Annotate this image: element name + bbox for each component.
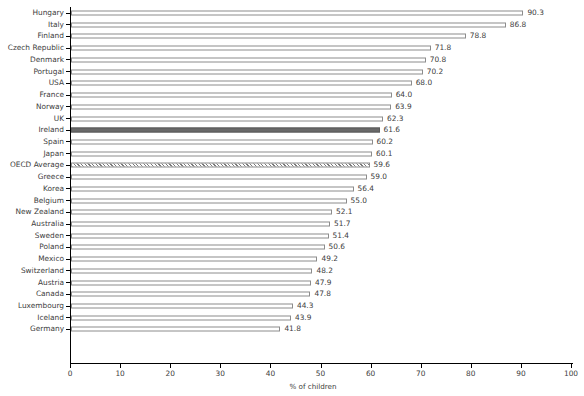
bar — [71, 22, 506, 27]
bar-value-label: 63.9 — [395, 103, 411, 110]
bar — [71, 104, 391, 109]
bar-row: Sweden51.4 — [0, 230, 584, 242]
category-label: Australia — [31, 220, 64, 227]
horizontal-bar-chart: Hungary90.3Italy86.8Finland78.8Czech Rep… — [0, 0, 584, 396]
bar-value-label: 86.8 — [510, 21, 526, 28]
x-axis-tick — [471, 364, 472, 368]
x-axis-title-label: % of children — [247, 382, 336, 391]
bar — [71, 198, 347, 203]
bar-row: OECD Average59.6 — [0, 160, 584, 172]
bar-value-label: 44.3 — [297, 302, 313, 309]
x-axis-tick-label: 10 — [115, 370, 124, 377]
category-label: OECD Average — [10, 162, 64, 169]
category-label: Greece — [38, 173, 64, 180]
bar — [71, 222, 330, 227]
x-axis-title: % of children — [0, 383, 584, 390]
bar — [71, 93, 392, 98]
x-axis-tick-label: 20 — [165, 370, 174, 377]
category-label: Belgium — [34, 197, 64, 204]
category-label: Canada — [36, 291, 64, 298]
bar-row: Luxembourg44.3 — [0, 300, 584, 312]
bar — [71, 139, 373, 144]
bar — [71, 186, 354, 191]
bar — [71, 315, 291, 320]
bar-row: Hungary90.3 — [0, 7, 584, 19]
bar-value-label: 48.2 — [316, 267, 332, 274]
x-axis-tick-label: 90 — [516, 370, 525, 377]
x-axis-tick — [120, 364, 121, 368]
bar-row: Czech Republic71.8 — [0, 42, 584, 54]
x-axis-tick-label: 0 — [68, 370, 73, 377]
category-label: Finland — [38, 33, 64, 40]
x-axis-tick-label: 70 — [416, 370, 425, 377]
bar — [71, 116, 383, 121]
bar — [71, 81, 412, 86]
category-label: Japan — [43, 150, 64, 157]
x-axis-tick — [321, 364, 322, 368]
x-axis-tick — [421, 364, 422, 368]
bar-value-label: 49.2 — [321, 255, 337, 262]
bar-row: Spain60.2 — [0, 136, 584, 148]
bar-value-label: 78.8 — [470, 33, 486, 40]
bar-row: Japan60.1 — [0, 148, 584, 160]
category-label: Hungary — [32, 9, 64, 16]
bar-row: Norway63.9 — [0, 101, 584, 113]
x-axis-tick — [270, 364, 271, 368]
category-label: Poland — [39, 244, 64, 251]
bar-row: New Zealand52.1 — [0, 206, 584, 218]
bar-value-label: 61.6 — [384, 127, 400, 134]
x-axis-tick-label: 40 — [266, 370, 275, 377]
x-axis-tick — [220, 364, 221, 368]
bar-value-label: 68.0 — [416, 80, 432, 87]
bar-row: Belgium55.0 — [0, 195, 584, 207]
bar-value-label: 70.8 — [430, 56, 446, 63]
bar — [71, 245, 325, 250]
bar-row: Canada47.8 — [0, 288, 584, 300]
bar-row: Mexico49.2 — [0, 253, 584, 265]
category-label: Sweden — [35, 232, 64, 239]
bar-value-label: 47.9 — [315, 279, 331, 286]
category-label: Norway — [36, 103, 64, 110]
bar-value-label: 56.4 — [358, 185, 374, 192]
clipped-title-strip — [0, 0, 584, 2]
bar-row: Iceland43.9 — [0, 312, 584, 324]
x-axis-tick-label: 50 — [316, 370, 325, 377]
category-label: Mexico — [38, 255, 64, 262]
bar — [71, 210, 332, 215]
category-label: Korea — [43, 185, 64, 192]
bar-value-label: 51.7 — [334, 220, 350, 227]
category-label: UK — [54, 115, 64, 122]
category-label: Italy — [48, 21, 64, 28]
bar — [71, 57, 426, 62]
bar — [71, 304, 293, 309]
bar-row: Ireland61.6 — [0, 124, 584, 136]
x-axis-tick — [571, 364, 572, 368]
bar — [71, 292, 310, 297]
bar-value-label: 60.2 — [377, 138, 393, 145]
bar-value-label: 62.3 — [387, 115, 403, 122]
category-label: Denmark — [30, 56, 64, 63]
bar-value-label: 60.1 — [376, 150, 392, 157]
bar-row: Austria47.9 — [0, 277, 584, 289]
x-axis-line — [70, 363, 573, 364]
bar — [71, 34, 466, 39]
bar — [71, 69, 423, 74]
bar-value-label: 59.0 — [371, 173, 387, 180]
category-label: Germany — [30, 326, 64, 333]
category-label: Austria — [38, 279, 64, 286]
bar-value-label: 43.9 — [295, 314, 311, 321]
category-label: Switzerland — [21, 267, 64, 274]
bar-value-label: 90.3 — [527, 9, 543, 16]
x-axis-tick — [70, 364, 71, 368]
bar — [71, 11, 523, 16]
bar — [71, 268, 312, 273]
bar — [71, 128, 380, 133]
bar-value-label: 70.2 — [427, 68, 443, 75]
bar-row: Germany41.8 — [0, 324, 584, 336]
bar-value-label: 52.1 — [336, 209, 352, 216]
bar-value-label: 50.6 — [329, 244, 345, 251]
bar-value-label: 64.0 — [396, 91, 412, 98]
bar-value-label: 51.4 — [333, 232, 349, 239]
bar-value-label: 59.6 — [374, 162, 390, 169]
bar — [71, 163, 370, 168]
